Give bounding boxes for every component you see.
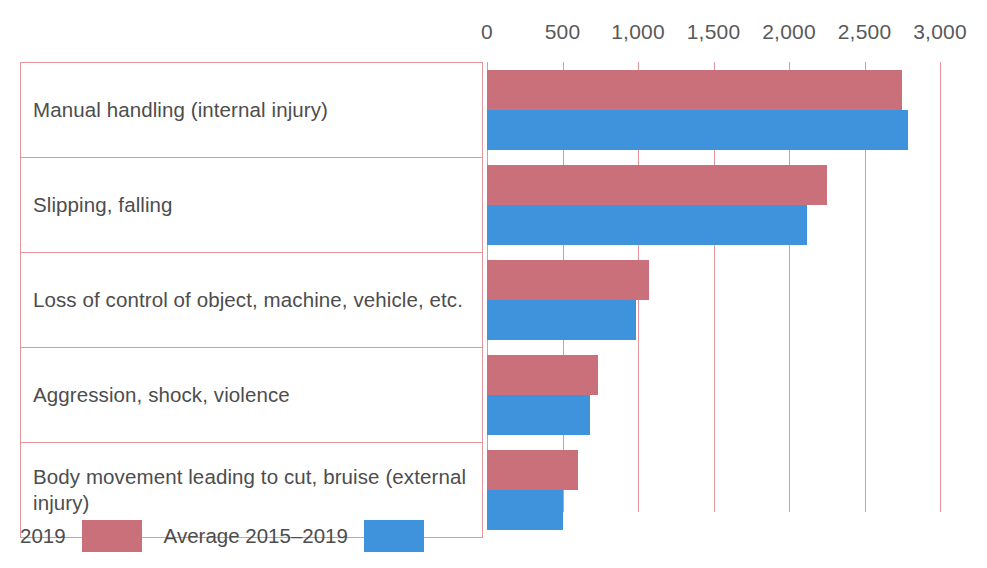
bar-group — [0, 62, 987, 157]
bar-current-year — [487, 70, 902, 110]
bar-average — [487, 110, 908, 150]
x-axis-tick-labels: 05001,0001,5002,0002,5003,000 — [0, 20, 987, 54]
x-axis-tick-label: 1,500 — [687, 20, 741, 44]
x-axis-tick-label: 2,000 — [762, 20, 816, 44]
x-axis-tick-label: 2,500 — [838, 20, 892, 44]
bar-average — [487, 300, 636, 340]
legend-color-swatch — [82, 520, 142, 552]
horizontal-bar-chart: 05001,0001,5002,0002,5003,000 Manual han… — [0, 0, 987, 568]
bars-layer — [0, 62, 987, 512]
legend-item[interactable]: Average 2015–2019 — [164, 520, 424, 552]
legend-color-swatch — [364, 520, 424, 552]
x-axis-tick-label: 500 — [545, 20, 581, 44]
bar-current-year — [487, 450, 578, 490]
bar-current-year — [487, 260, 649, 300]
bar-current-year — [487, 355, 598, 395]
x-axis-tick-label: 3,000 — [913, 20, 967, 44]
bar-average — [487, 395, 590, 435]
chart-legend: 2019Average 2015–2019 — [20, 518, 424, 554]
legend-item[interactable]: 2019 — [20, 520, 142, 552]
bar-average — [487, 490, 563, 530]
bar-group — [0, 157, 987, 252]
bar-group — [0, 347, 987, 442]
legend-item-label: Average 2015–2019 — [164, 524, 348, 548]
x-axis-tick-label: 1,000 — [611, 20, 665, 44]
legend-item-label: 2019 — [20, 524, 66, 548]
bar-current-year — [487, 165, 827, 205]
bar-average — [487, 205, 807, 245]
bar-group — [0, 252, 987, 347]
x-axis-tick-label: 0 — [481, 20, 493, 44]
